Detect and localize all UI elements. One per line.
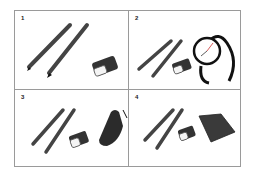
option-grid: 1 2	[14, 10, 241, 167]
pencil-icon	[46, 110, 74, 152]
pencil-icon	[47, 25, 87, 78]
pencil-icon	[145, 110, 173, 140]
pencils-eraser-notepad-illustration	[129, 90, 242, 168]
option-panel-1[interactable]: 1	[15, 11, 128, 89]
flip-phone-icon	[99, 110, 127, 146]
pencil-icon	[33, 110, 63, 144]
option-panel-3[interactable]: 3	[15, 90, 128, 168]
option-panel-4[interactable]: 4	[129, 90, 242, 168]
eraser-icon	[171, 58, 192, 74]
option-panel-2[interactable]: 2	[129, 11, 242, 89]
pencil-icon	[27, 25, 70, 71]
eraser-icon	[68, 131, 89, 148]
notepad-icon	[199, 114, 235, 142]
pencils-eraser-watch-illustration	[129, 11, 242, 89]
eraser-icon	[177, 125, 196, 141]
eraser-icon	[91, 55, 118, 76]
pencil-icon	[139, 41, 171, 69]
pencils-eraser-phone-illustration	[15, 90, 128, 168]
pencils-eraser-illustration	[15, 11, 128, 89]
wristwatch-icon	[194, 36, 234, 83]
